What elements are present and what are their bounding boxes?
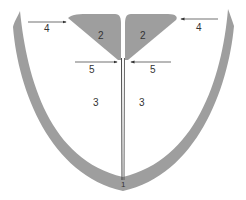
label-2-right: 2 bbox=[140, 30, 146, 41]
label-4-left: 4 bbox=[44, 23, 50, 34]
label-1: 1 bbox=[121, 180, 126, 189]
anatomical-diagram: 4 4 2 2 5 5 3 3 1 bbox=[0, 0, 246, 200]
central-line-right bbox=[124, 58, 125, 180]
label-5-left: 5 bbox=[89, 64, 95, 75]
label-3-right: 3 bbox=[139, 97, 145, 108]
label-4-right: 4 bbox=[196, 22, 202, 33]
central-line-left bbox=[122, 58, 123, 180]
left-wedge bbox=[68, 14, 121, 60]
label-2-left: 2 bbox=[98, 30, 104, 41]
u-shaped-band bbox=[13, 9, 234, 191]
right-wedge bbox=[125, 14, 177, 60]
label-5-right: 5 bbox=[150, 64, 156, 75]
label-3-left: 3 bbox=[93, 97, 99, 108]
